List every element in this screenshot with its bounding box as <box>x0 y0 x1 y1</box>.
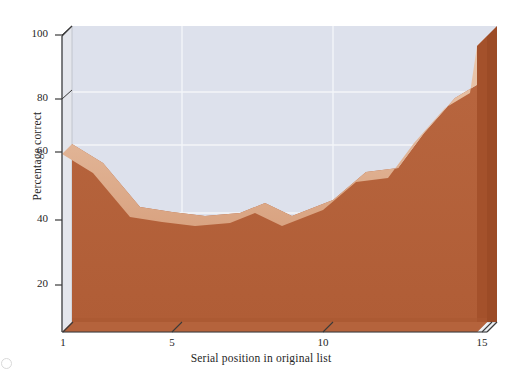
y-tick-label-20: 20 <box>14 277 48 289</box>
x-axis-title: Serial position in original list <box>0 352 522 364</box>
left-wall-3d <box>62 26 72 332</box>
y-axis-title: Percentage correct <box>31 76 43 236</box>
serial-position-area-chart <box>0 0 522 379</box>
area-front-base <box>62 318 487 332</box>
x-tick-label-1: 1 <box>51 336 75 348</box>
area-series-right-face <box>477 26 497 332</box>
chart-figure: 100 80 60 40 20 1 5 10 15 Percentage cor… <box>0 0 522 379</box>
page-corner-mark <box>1 358 12 369</box>
x-tick-label-15: 15 <box>470 336 494 348</box>
x-tick-label-5: 5 <box>160 336 184 348</box>
x-tick-label-10: 10 <box>311 336 335 348</box>
y-tick-label-100: 100 <box>14 27 48 39</box>
